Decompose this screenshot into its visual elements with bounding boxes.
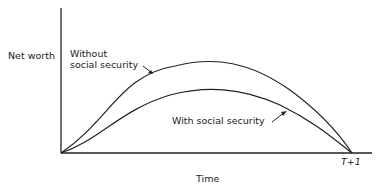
y-axis-label: Net worth (8, 50, 55, 61)
arrowhead-lower-icon (281, 111, 287, 116)
curve-without-social-security (61, 61, 352, 153)
chart-canvas (0, 0, 380, 192)
annotation-without-line1: Without (70, 48, 107, 59)
annotation-with: With social security (172, 115, 265, 126)
x-tick-label: T+1 (341, 156, 361, 167)
x-axis-label: Time (196, 173, 219, 184)
annotation-without-line2: social security (70, 59, 138, 70)
